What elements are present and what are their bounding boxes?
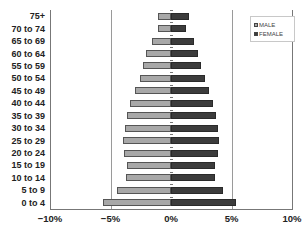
category-tick	[170, 47, 173, 48]
bar-female	[171, 87, 209, 94]
category-label: 55 to 59	[11, 61, 45, 71]
gridline	[232, 10, 233, 209]
x-tick-label: −10%	[38, 213, 63, 224]
x-axis-line	[50, 209, 293, 210]
bar-male	[124, 150, 171, 157]
bar-female	[171, 62, 201, 69]
category-tick	[170, 60, 173, 61]
y-axis-line	[50, 10, 51, 209]
category-tick	[170, 134, 173, 135]
bar-female	[171, 38, 194, 45]
gridline	[111, 10, 112, 209]
bar-female	[171, 137, 219, 144]
category-tick	[170, 122, 173, 123]
category-label: 75+	[30, 11, 45, 21]
legend-label-male: MALE	[259, 22, 275, 28]
bar-male	[146, 50, 171, 57]
bar-female	[171, 75, 205, 82]
bar-male	[135, 87, 171, 94]
category-label: 50 to 54	[11, 73, 45, 83]
x-tick-label: 0%	[164, 213, 178, 224]
bar-male	[103, 199, 171, 206]
bar-female	[171, 112, 216, 119]
category-tick	[170, 159, 173, 160]
bar-female	[171, 125, 218, 132]
category-tick	[170, 22, 173, 23]
category-label: 65 to 69	[11, 36, 45, 46]
category-tick	[170, 110, 173, 111]
legend-label-female: FEMALE	[259, 31, 283, 37]
x-tick-label: 10%	[282, 213, 301, 224]
category-tick	[170, 172, 173, 173]
category-tick	[170, 147, 173, 148]
bar-female	[171, 199, 236, 206]
category-label: 0 to 4	[21, 198, 45, 208]
bar-female	[171, 150, 218, 157]
bar-female	[171, 100, 213, 107]
category-label: 45 to 49	[11, 86, 45, 96]
x-tick-label: 5%	[225, 213, 239, 224]
bar-male	[127, 112, 171, 119]
category-tick	[170, 184, 173, 185]
bar-female	[171, 162, 215, 169]
bar-female	[171, 25, 186, 32]
category-label: 40 to 44	[11, 98, 45, 108]
category-label: 70 to 74	[11, 24, 45, 34]
bar-female	[171, 13, 189, 20]
bar-female	[171, 174, 215, 181]
legend: MALE FEMALE	[250, 16, 295, 42]
bar-female	[171, 187, 223, 194]
category-label: 60 to 64	[11, 49, 45, 59]
category-label: 10 to 14	[11, 173, 45, 183]
bar-male	[143, 62, 171, 69]
category-label: 20 to 24	[11, 148, 45, 158]
category-tick	[170, 85, 173, 86]
bar-male	[140, 75, 171, 82]
bar-male	[158, 13, 171, 20]
legend-swatch-female	[254, 32, 258, 36]
category-label: 35 to 39	[11, 111, 45, 121]
legend-item-male: MALE	[254, 22, 275, 28]
bar-female	[171, 50, 198, 57]
category-tick	[170, 197, 173, 198]
category-label: 25 to 29	[11, 136, 45, 146]
bar-male	[123, 137, 171, 144]
category-tick	[170, 35, 173, 36]
category-label: 5 to 9	[21, 185, 45, 195]
category-tick	[170, 10, 173, 11]
bar-male	[152, 38, 171, 45]
category-label: 30 to 34	[11, 123, 45, 133]
bar-male	[127, 162, 171, 169]
legend-swatch-male	[254, 23, 258, 27]
population-pyramid-chart: 75+70 to 7465 to 6960 to 6455 to 5950 to…	[0, 0, 307, 234]
bar-male	[125, 125, 171, 132]
category-tick	[170, 97, 173, 98]
x-tick-label: −5%	[101, 213, 120, 224]
category-label: 15 to 19	[11, 160, 45, 170]
bar-male	[126, 174, 171, 181]
bar-male	[130, 100, 171, 107]
bar-male	[158, 25, 171, 32]
bar-male	[117, 187, 171, 194]
legend-item-female: FEMALE	[254, 31, 283, 37]
category-tick	[170, 72, 173, 73]
